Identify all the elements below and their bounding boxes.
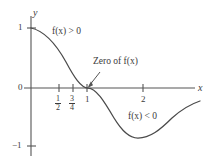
zero-callout-label: Zero of f(x) — [93, 57, 138, 67]
y-axis-label: y — [33, 8, 37, 18]
graph-figure: y x 1 0 −1 1 2 3 4 1 2 f(x) > 0 f(x) < 0… — [0, 0, 209, 163]
x-tick-label-two: 2 — [141, 95, 146, 104]
graph-canvas — [0, 0, 209, 163]
fraction-one-half: 1 2 — [55, 95, 61, 112]
x-tick-label-three-quarters: 3 4 — [69, 94, 75, 112]
fraction-numerator: 3 — [69, 95, 75, 103]
x-tick-label-one: 1 — [85, 95, 90, 104]
positive-region-label: f(x) > 0 — [52, 27, 81, 37]
y-tick-label-one: 1 — [18, 23, 23, 32]
y-tick-label-minus-one: −1 — [12, 141, 22, 150]
fraction-denominator: 2 — [55, 103, 61, 112]
y-tick-label-zero: 0 — [18, 83, 23, 92]
negative-region-label: f(x) < 0 — [128, 112, 157, 122]
fraction-denominator: 4 — [69, 103, 75, 112]
fraction-numerator: 1 — [55, 95, 61, 103]
fraction-three-quarters: 3 4 — [69, 95, 75, 112]
x-axis-label: x — [198, 83, 202, 93]
x-tick-label-one-half: 1 2 — [55, 94, 61, 112]
function-curve — [31, 28, 200, 138]
